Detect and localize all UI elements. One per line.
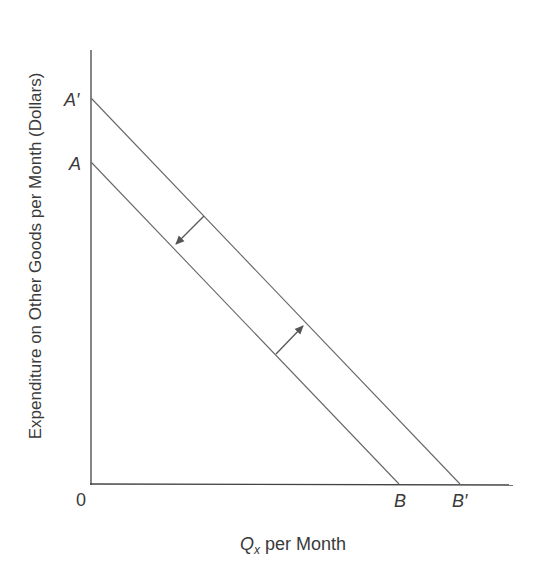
x-axis [90,484,513,485]
label-A: A [68,154,81,174]
budget-line-chart: A′ A 0 B B′ Qx per Month Expenditure on … [0,0,535,579]
x-axis-label: Qx per Month [240,534,346,557]
y-axis-label: Expenditure on Other Goods per Month (Do… [26,73,45,440]
x-label-main: Q [240,534,254,554]
shift-outward-arrow [276,326,303,354]
label-B: B [394,491,406,511]
budget-line-AB [91,162,399,484]
label-A-prime: A′ [63,90,80,110]
budget-line-A-prime-B-prime [91,98,460,484]
shift-inward-arrow [176,216,204,244]
x-label-rest: per Month [260,534,346,554]
label-B-prime: B′ [452,491,468,511]
label-origin: 0 [76,490,86,510]
